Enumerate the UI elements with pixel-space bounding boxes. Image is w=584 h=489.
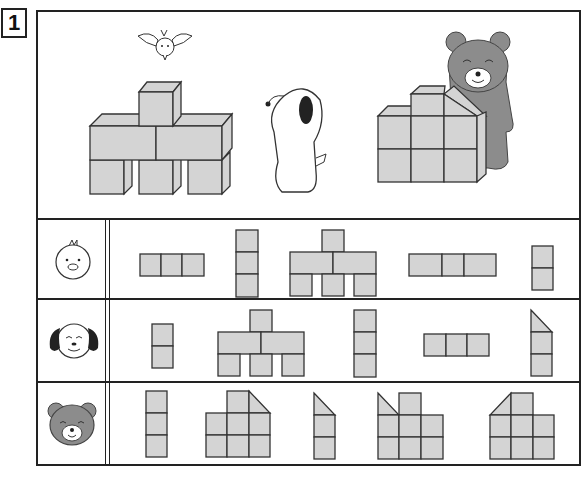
option-2[interactable] — [218, 310, 308, 380]
bird-icon — [136, 28, 196, 68]
dog-icon — [264, 82, 334, 202]
option-3[interactable] — [314, 393, 338, 463]
block-structure-left — [90, 80, 240, 200]
option-1[interactable] — [146, 391, 170, 461]
options — [110, 300, 579, 381]
scene-panel — [38, 12, 579, 220]
option-3[interactable] — [290, 230, 380, 300]
viewer-cell — [38, 383, 106, 464]
options — [110, 383, 579, 464]
bear-face-icon — [44, 399, 100, 449]
answer-row-dog — [38, 300, 579, 383]
chick-face-icon — [53, 238, 93, 282]
option-1[interactable] — [152, 324, 176, 372]
viewer-cell — [38, 300, 106, 381]
option-5[interactable] — [490, 393, 560, 463]
answer-row-chick — [38, 220, 579, 300]
option-1[interactable] — [140, 254, 210, 280]
option-5[interactable] — [532, 246, 556, 292]
problem-number: 1 — [1, 8, 27, 38]
option-2[interactable] — [236, 230, 260, 300]
option-5[interactable] — [531, 310, 555, 380]
dog-face-icon — [46, 318, 102, 364]
options — [110, 220, 579, 298]
block-structure-right — [378, 86, 528, 206]
answer-row-bear — [38, 383, 579, 464]
option-4[interactable] — [424, 334, 494, 360]
option-2[interactable] — [206, 391, 276, 461]
viewer-cell — [38, 220, 106, 298]
problem-frame — [36, 10, 581, 466]
option-4[interactable] — [409, 254, 499, 280]
option-4[interactable] — [378, 393, 448, 463]
option-3[interactable] — [354, 310, 378, 380]
